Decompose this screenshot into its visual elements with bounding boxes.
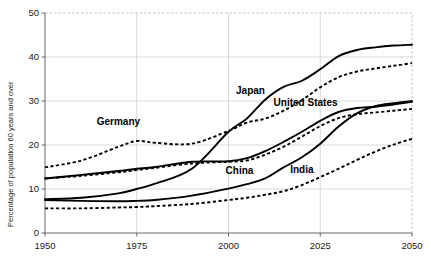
x-tick-label: 2025 [310, 240, 331, 251]
series-label-japan: Japan [236, 85, 265, 96]
x-tick-label: 2000 [218, 240, 239, 251]
x-tick-label: 1975 [126, 240, 147, 251]
y-tick-label: 40 [28, 51, 39, 62]
chart-container: 0102030405019501975200020252050 JapanGer… [0, 0, 431, 264]
series-label-india: India [290, 164, 314, 175]
x-tick-label: 1950 [34, 240, 55, 251]
line-chart: 0102030405019501975200020252050 JapanGer… [0, 0, 431, 264]
series-label-united-states: United States [274, 97, 338, 108]
y-tick-label: 0 [34, 227, 39, 238]
y-axis-title-text: Percentage of population 60 years and ov… [6, 81, 15, 227]
chart-background [0, 0, 431, 264]
x-tick-label: 2050 [401, 240, 422, 251]
y-tick-label: 20 [28, 139, 39, 150]
y-axis-title: Percentage of population 60 years and ov… [6, 81, 15, 227]
y-tick-label: 50 [28, 7, 39, 18]
y-tick-label: 10 [28, 183, 39, 194]
y-tick-label: 30 [28, 95, 39, 106]
series-label-china: China [226, 165, 254, 176]
series-label-germany: Germany [97, 116, 141, 127]
